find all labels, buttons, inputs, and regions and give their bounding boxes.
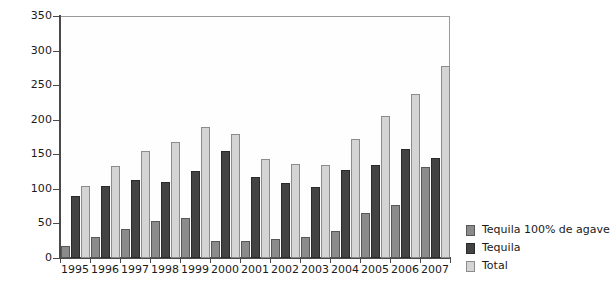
bar xyxy=(351,139,360,258)
bar xyxy=(391,205,400,258)
bar xyxy=(201,127,210,258)
y-axis-tick-label: 50 xyxy=(0,217,52,228)
bar-group-1998 xyxy=(151,16,180,258)
bar-group-2004 xyxy=(331,16,360,258)
bar xyxy=(441,66,450,258)
bar xyxy=(421,167,430,258)
bar-group-1997 xyxy=(121,16,150,258)
legend-swatch-icon xyxy=(466,225,475,236)
y-axis-tick-label: 0 xyxy=(0,252,52,263)
bar xyxy=(151,221,160,258)
bar xyxy=(311,187,320,258)
bar xyxy=(361,213,370,258)
y-axis-tick-label: 350 xyxy=(0,10,52,21)
bar-group-2005 xyxy=(361,16,390,258)
y-axis-tick-mark xyxy=(53,189,59,190)
bar-group-2003 xyxy=(301,16,330,258)
legend-item: Total xyxy=(466,258,606,274)
bar xyxy=(261,159,270,258)
bar xyxy=(131,180,140,258)
y-axis-tick-mark xyxy=(53,258,59,259)
chart-legend: Tequila 100% de agaveTequilaTotal xyxy=(466,222,606,276)
x-axis-tick-label: 2007 xyxy=(415,264,455,276)
bars-layer xyxy=(60,16,450,258)
bar-group-1995 xyxy=(61,16,90,258)
bar xyxy=(321,165,330,258)
y-axis-tick-mark xyxy=(53,120,59,121)
bar xyxy=(111,166,120,258)
bar xyxy=(381,116,390,258)
y-axis-tick-mark xyxy=(53,154,59,155)
legend-label: Total xyxy=(482,260,508,272)
bar xyxy=(211,241,220,258)
bar-group-1999 xyxy=(181,16,210,258)
bar-group-2007 xyxy=(421,16,450,258)
bar-group-2001 xyxy=(241,16,270,258)
bar xyxy=(181,218,190,258)
bar xyxy=(401,149,410,258)
bar xyxy=(161,182,170,258)
legend-swatch-icon xyxy=(466,243,475,254)
y-axis-tick-label: 250 xyxy=(0,79,52,90)
legend-item: Tequila xyxy=(466,240,606,256)
bar xyxy=(61,246,70,258)
bar xyxy=(171,142,180,258)
y-axis-tick-label: 150 xyxy=(0,148,52,159)
y-axis-tick-mark xyxy=(53,85,59,86)
bar xyxy=(341,170,350,259)
x-axis-tick-mark xyxy=(450,258,451,263)
bar xyxy=(71,196,80,258)
bar xyxy=(191,171,200,258)
y-axis-tick-mark xyxy=(53,223,59,224)
bar xyxy=(81,186,90,258)
y-axis-tick-mark xyxy=(53,16,59,17)
bar-group-2002 xyxy=(271,16,300,258)
bar xyxy=(251,177,260,258)
bar-group-2006 xyxy=(391,16,420,258)
bar xyxy=(101,186,110,258)
y-axis-tick-mark xyxy=(53,51,59,52)
bar xyxy=(301,237,310,258)
bar xyxy=(241,241,250,258)
bar xyxy=(331,231,340,258)
bar xyxy=(411,94,420,258)
y-axis-tick-label: 100 xyxy=(0,183,52,194)
bar xyxy=(431,158,440,258)
bar xyxy=(231,134,240,258)
bar xyxy=(281,183,290,258)
bar-group-2000 xyxy=(211,16,240,258)
legend-label: Tequila xyxy=(482,242,520,254)
bar xyxy=(141,151,150,258)
legend-label: Tequila 100% de agave xyxy=(482,224,610,236)
y-axis-tick-label: 200 xyxy=(0,114,52,125)
bar xyxy=(91,237,100,258)
bar xyxy=(291,164,300,258)
y-axis-tick-label: 300 xyxy=(0,45,52,56)
bar xyxy=(221,151,230,258)
bar xyxy=(271,239,280,258)
bar-group-1996 xyxy=(91,16,120,258)
legend-swatch-icon xyxy=(466,261,475,272)
legend-item: Tequila 100% de agave xyxy=(466,222,606,238)
bar xyxy=(371,165,380,258)
bar xyxy=(121,229,130,258)
